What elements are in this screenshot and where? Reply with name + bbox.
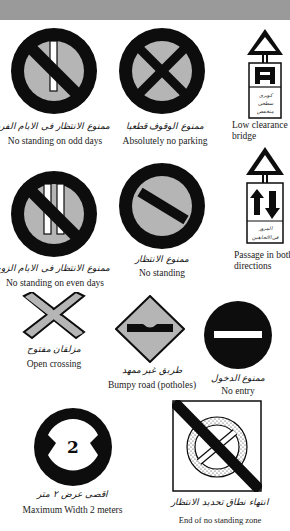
caption-en-odd-days: No standing on odd days <box>0 136 110 147</box>
caption-ar-no-parking: ممنوع الوقوف قطعيا <box>110 121 220 131</box>
caption-en-end-zone: End of no standing zone <box>160 515 280 526</box>
end-no-standing-zone-sign-icon <box>172 400 262 492</box>
absolutely-no-parking-sign-icon <box>118 27 206 115</box>
caption-ar-no-standing: ممنوع الانتظار <box>118 254 206 264</box>
svg-text:منخفض: منخفض <box>257 108 274 115</box>
caption-en-no-standing: No standing <box>118 268 206 279</box>
caption-ar-open-crossing: مزلقان مفتوح <box>10 344 98 354</box>
caption-ar-no-entry: ممنوع الدخول <box>203 373 273 383</box>
passage-both-directions-sign-icon: المرور فى الاتجاهين <box>243 145 287 245</box>
caption-en-open-crossing: Open crossing <box>10 359 98 370</box>
caption-ar-bumpy-road: طريق غير ممهد <box>108 365 196 375</box>
no-standing-odd-days-sign-icon <box>10 27 98 115</box>
bumpy-road-sign-icon <box>115 295 185 363</box>
no-standing-sign-icon <box>118 162 206 250</box>
caption-en-low-clearance-line1: Low clearance <box>232 120 290 131</box>
no-entry-sign-icon <box>203 300 273 370</box>
no-standing-even-days-sign-icon <box>10 170 98 258</box>
caption-en-low-clearance-line2: bridge <box>232 131 290 142</box>
maximum-width-sign-icon: 2 <box>28 407 118 487</box>
caption-ar-odd-days: ممنوع الانتظار فى الايام الفردية <box>0 121 110 131</box>
caption-en-even-days: No standing on even days <box>0 278 110 289</box>
svg-text:كوبرى: كوبرى <box>259 92 274 99</box>
maximum-width-value: 2 <box>67 437 79 457</box>
caption-en-passage-line2: directions <box>234 261 290 272</box>
caption-en-no-entry: No entry <box>203 386 273 397</box>
caption-en-no-parking: Absolutely no parking <box>110 136 220 147</box>
caption-en-passage-line1: Passage in both <box>234 250 290 261</box>
caption-ar-even-days: ممنوع الانتظار فى الايام الزوجية <box>0 263 110 273</box>
caption-ar-max-width: اقصى عرض ٢ متر <box>10 489 135 499</box>
low-clearance-bridge-sign-icon: كوبرى سطحى منخفض <box>245 27 285 119</box>
svg-text:سطحى: سطحى <box>258 100 274 106</box>
svg-text:المرور: المرور <box>258 225 273 232</box>
caption-en-max-width: Maximum Width 2 meters <box>5 505 140 516</box>
caption-en-bumpy-road: Bumpy road (potholes) <box>102 380 202 391</box>
caption-ar-end-zone: انتهاء نطاق تحديد الانتظار <box>160 497 280 507</box>
open-crossing-sign-icon <box>18 292 90 340</box>
header-bar <box>0 0 290 20</box>
svg-text:فى الاتجاهين: فى الاتجاهين <box>252 234 280 241</box>
